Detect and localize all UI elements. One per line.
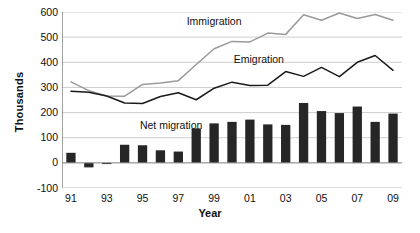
bar [156, 150, 165, 163]
x-tick-label: 03 [280, 192, 292, 204]
y-tick-label: 100 [18, 132, 58, 143]
bar [263, 124, 272, 162]
y-tick-label: -100 [18, 183, 58, 194]
y-tick-label: 0 [18, 157, 58, 168]
y-tick-label: 400 [18, 57, 58, 68]
y-tick-label: 600 [18, 7, 58, 18]
bar [120, 145, 129, 163]
x-axis-title: Year [0, 207, 420, 219]
bar [281, 125, 290, 163]
x-tick-label: 07 [351, 192, 363, 204]
y-tick-label: 300 [18, 82, 58, 93]
bar [192, 128, 201, 162]
plot-area: ImmigrationEmigrationNet migration [62, 12, 402, 188]
bar [227, 122, 236, 163]
chart-canvas [62, 12, 402, 188]
x-axis-ticks: 91939597990103050709 [62, 190, 402, 206]
x-tick-label: 97 [172, 192, 184, 204]
bar [299, 103, 308, 163]
chart-figure: Thousands 6005004003002001000-100 Immigr… [0, 0, 420, 233]
bar [245, 120, 254, 163]
bar [66, 153, 75, 163]
x-tick-label: 99 [208, 192, 220, 204]
series-annotation: Net migration [140, 119, 202, 131]
series-annotation: Immigration [187, 15, 242, 27]
bar [371, 122, 380, 163]
bar [317, 111, 326, 163]
bar [335, 113, 344, 163]
x-tick-label: 93 [101, 192, 113, 204]
bar [209, 123, 218, 162]
y-axis-ticks: 6005004003002001000-100 [14, 12, 58, 188]
bar [138, 145, 147, 163]
x-tick-label: 95 [137, 192, 149, 204]
series-annotation: Emigration [234, 53, 284, 65]
bar [388, 114, 397, 163]
bar [84, 163, 93, 168]
x-tick-label: 91 [65, 192, 77, 204]
x-tick-label: 09 [387, 192, 399, 204]
bar [353, 107, 362, 163]
x-tick-label: 01 [244, 192, 256, 204]
y-tick-label: 200 [18, 107, 58, 118]
y-tick-label: 500 [18, 32, 58, 43]
bar [174, 152, 183, 163]
x-tick-label: 05 [316, 192, 328, 204]
